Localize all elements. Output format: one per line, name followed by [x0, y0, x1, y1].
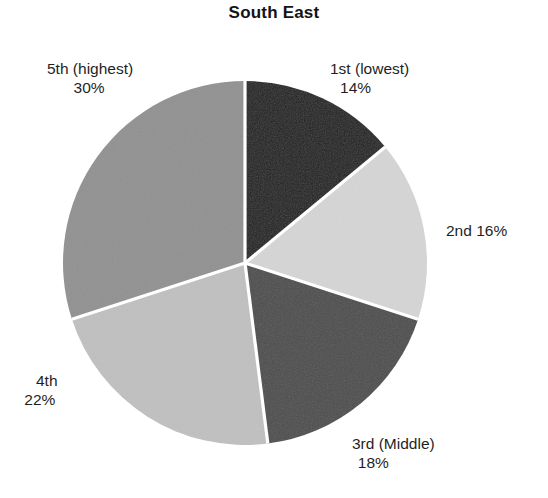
- pie-chart: South East 1st (lowest) 14% 2nd 16%: [0, 0, 548, 498]
- slice-label-3rd: 3rd (Middle) 18%: [352, 434, 435, 472]
- slice-label-1st: 1st (lowest) 14%: [330, 59, 409, 97]
- slice-label-3rd-name: 3rd (Middle): [352, 434, 435, 453]
- slice-label-3rd-value: 18%: [312, 453, 435, 472]
- slice-label-2nd-value: 16%: [476, 222, 507, 239]
- slice-label-2nd-name: 2nd: [446, 222, 472, 239]
- slice-label-4th: 4th 22%: [36, 371, 58, 409]
- slice-label-1st-name: 1st (lowest): [330, 59, 409, 78]
- pie-graphic: [62, 80, 428, 446]
- slice-label-5th-name: 5th (highest): [47, 59, 133, 78]
- slice-label-5th-value: 30%: [45, 78, 133, 97]
- chart-title: South East: [0, 3, 548, 23]
- slice-label-5th: 5th (highest) 30%: [47, 59, 133, 97]
- slice-label-4th-name: 4th: [36, 371, 58, 390]
- slice-label-4th-value: 22%: [22, 390, 58, 409]
- slice-label-1st-value: 14%: [302, 78, 409, 97]
- pie-svg: [62, 80, 428, 446]
- slice-label-2nd: 2nd 16%: [446, 221, 507, 240]
